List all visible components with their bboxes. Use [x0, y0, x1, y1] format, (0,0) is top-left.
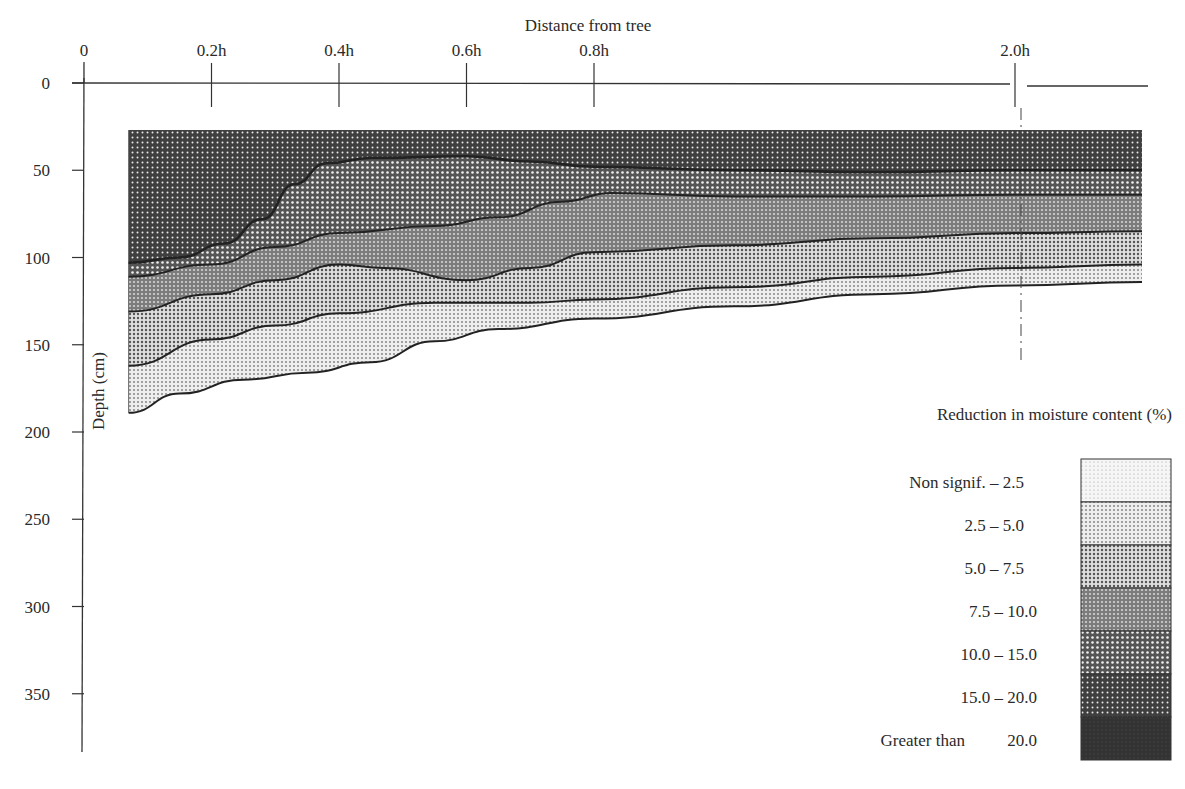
y-tick-label: 200: [25, 423, 51, 442]
x-tick-label: 0.8h: [579, 41, 609, 60]
legend-swatch: [1081, 588, 1171, 631]
legend-label: 7.5 – 10.0: [969, 602, 1037, 621]
y-tick-label: 100: [25, 249, 51, 268]
legend-label: 10.0 – 15.0: [961, 645, 1038, 664]
y-tick-label: 0: [42, 74, 51, 93]
moisture-zones: [129, 130, 1142, 413]
x-tick-label: 2.0h: [1000, 41, 1030, 60]
x-axis-ticks: 00.2h0.4h0.6h0.8h2.0h: [80, 41, 1031, 107]
legend-label: Greater than: [881, 731, 966, 750]
moisture-depth-chart: 00.2h0.4h0.6h0.8h2.0h 050100150200250300…: [0, 0, 1185, 789]
y-tick-label: 50: [33, 161, 50, 180]
legend-swatch: [1081, 717, 1171, 760]
y-axis-ticks: 050100150200250300350: [25, 74, 85, 704]
legend-swatch: [1081, 502, 1171, 545]
legend-label: 20.0: [1007, 731, 1037, 750]
x-tick-label: 0: [80, 41, 89, 60]
legend-title: Reduction in moisture content (%): [937, 405, 1172, 424]
legend: Reduction in moisture content (%) Non si…: [881, 405, 1172, 760]
legend-swatch: [1081, 459, 1171, 502]
x-tick-label: 0.4h: [324, 41, 354, 60]
x-tick-label: 0.6h: [452, 41, 482, 60]
y-tick-label: 300: [25, 598, 51, 617]
y-axis-title: Depth (cm): [89, 352, 108, 430]
x-tick-label: 0.2h: [197, 41, 227, 60]
x-axis-title: Distance from tree: [525, 16, 652, 35]
legend-label: 2.5 – 5.0: [965, 516, 1025, 535]
y-tick-label: 150: [25, 336, 51, 355]
y-axis-line: [82, 62, 84, 752]
legend-label: Non signif. – 2.5: [909, 473, 1024, 492]
legend-swatch: [1081, 674, 1171, 717]
legend-label: 5.0 – 7.5: [965, 559, 1025, 578]
y-tick-label: 250: [25, 510, 51, 529]
legend-swatch: [1081, 545, 1171, 588]
y-tick-label: 350: [25, 685, 51, 704]
legend-label: 15.0 – 20.0: [961, 688, 1038, 707]
x-axis-line-left: [72, 83, 1010, 84]
legend-swatch: [1081, 631, 1171, 674]
